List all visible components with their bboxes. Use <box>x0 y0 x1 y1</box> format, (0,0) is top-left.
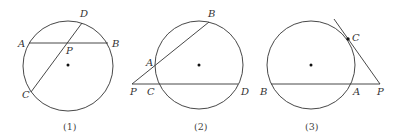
geometry-diagram: A B C D P (1) A B C D P (2) B C A P (3) <box>0 0 405 138</box>
label-a: A <box>352 86 360 97</box>
label-d: D <box>79 8 88 19</box>
label-p: P <box>129 86 137 97</box>
label-b: B <box>259 86 267 97</box>
caption-1: (1) <box>63 121 76 132</box>
figure-3: B C A P (3) <box>259 19 384 132</box>
caption-2: (2) <box>194 121 207 132</box>
caption-3: (3) <box>305 121 318 132</box>
label-p: P <box>376 86 384 97</box>
tangent-point-c <box>346 37 349 40</box>
label-b: B <box>111 38 119 49</box>
figure-1: A B C D P (1) <box>17 8 119 132</box>
label-c: C <box>352 32 360 43</box>
center-dot-1 <box>67 64 70 67</box>
figure-2: A B C D P (2) <box>129 8 249 132</box>
center-dot-3 <box>310 64 313 67</box>
label-d: D <box>240 86 249 97</box>
center-dot-2 <box>198 64 201 67</box>
chord-cd <box>31 23 82 92</box>
label-a: A <box>17 38 25 49</box>
label-c: C <box>147 86 155 97</box>
tangent-pc <box>334 19 380 84</box>
label-p: P <box>65 45 73 56</box>
label-b: B <box>207 8 215 19</box>
label-a: A <box>145 57 153 68</box>
label-c: C <box>22 89 30 100</box>
